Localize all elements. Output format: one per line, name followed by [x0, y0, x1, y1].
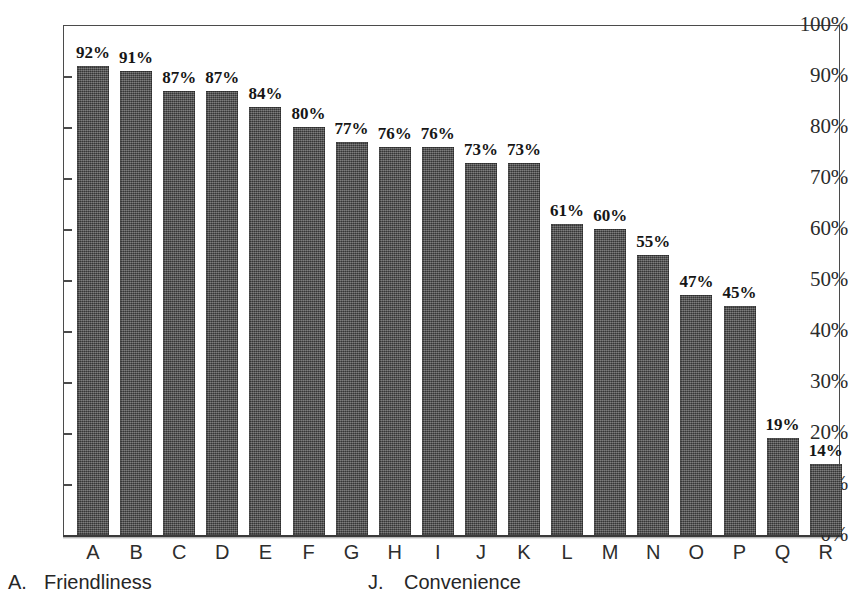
bar-i — [422, 147, 454, 535]
bar-value-label-e: 84% — [240, 85, 290, 102]
bar-value-label-k: 73% — [499, 141, 549, 158]
legend-key-j: J. — [368, 569, 384, 595]
bar-k — [508, 163, 540, 535]
bar-c — [163, 91, 195, 535]
bar-h — [379, 147, 411, 535]
bar-n — [637, 255, 669, 536]
bar-d — [206, 91, 238, 535]
bar-o — [680, 295, 712, 535]
bar-g — [336, 142, 368, 535]
legend-label-a: Friendliness — [44, 569, 152, 595]
bar-value-label-r: 14% — [801, 442, 851, 459]
bar-q — [767, 438, 799, 535]
x-axis-category-r: R — [801, 541, 851, 563]
bar-l — [551, 224, 583, 535]
bar-value-label-n: 55% — [628, 233, 678, 250]
legend-key-a: A. — [8, 569, 27, 595]
bar-r — [810, 464, 842, 535]
legend-label-j: Convenience — [404, 569, 521, 595]
bar-value-label-b: 91% — [111, 49, 161, 66]
bar-value-label-m: 60% — [585, 207, 635, 224]
bar-p — [724, 306, 756, 536]
bar-e — [249, 107, 281, 535]
legend: A.FriendlinessJ.Convenience — [0, 569, 848, 602]
bar-m — [594, 229, 626, 535]
bar-j — [465, 163, 497, 535]
bar-value-label-q: 19% — [758, 416, 808, 433]
bar-b — [120, 71, 152, 535]
bar-value-label-p: 45% — [715, 284, 765, 301]
bar-a — [77, 66, 109, 535]
bar-f — [293, 127, 325, 535]
